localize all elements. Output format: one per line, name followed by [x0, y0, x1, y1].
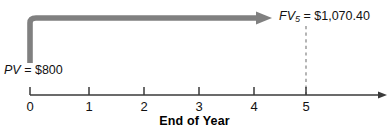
future-value-label: FV5 = $1,070.40	[279, 10, 370, 24]
present-value-label: PV = $800	[4, 64, 63, 77]
tick-label-5: 5	[296, 100, 316, 113]
compounding-flow-arrow	[30, 12, 272, 64]
tick-label-2: 2	[134, 100, 154, 113]
fv-variable: FV	[279, 9, 295, 23]
tick-label-0: 0	[20, 100, 40, 113]
flow-arrow-head	[256, 12, 272, 25]
tick-label-3: 3	[189, 100, 209, 113]
pv-variable: PV	[4, 63, 21, 77]
pv-equals: =	[21, 63, 35, 77]
time-axis	[30, 87, 387, 99]
fv-amount: $1,070.40	[314, 9, 370, 23]
flow-arrow-path	[30, 18, 259, 63]
pv-amount: $800	[35, 63, 63, 77]
axis-ticks	[30, 87, 306, 95]
fv-equals: =	[300, 9, 314, 23]
cash-flow-timeline-figure: PV = $800 FV5 = $1,070.40 0 1 2 3 4 5 En…	[0, 0, 389, 130]
axis-arrow-head	[378, 92, 387, 99]
tick-label-1: 1	[79, 100, 99, 113]
axis-title: End of Year	[0, 115, 389, 128]
tick-label-4: 4	[244, 100, 264, 113]
